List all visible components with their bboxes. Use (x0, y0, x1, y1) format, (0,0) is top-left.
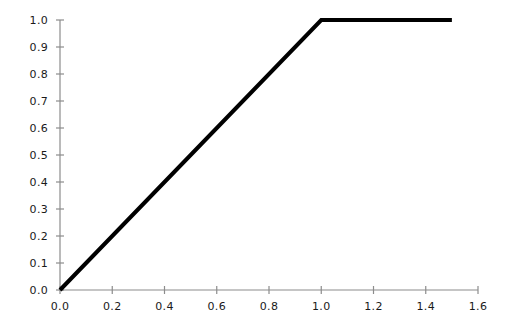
y-tick-label: 0.7 (6, 95, 48, 108)
plot-canvas (0, 0, 510, 329)
axes-group (56, 20, 478, 294)
x-tick-label: 1.6 (469, 300, 487, 313)
y-tick-label: 0.1 (6, 257, 48, 270)
y-tick-label: 1.0 (6, 14, 48, 27)
x-tick-label: 0.6 (208, 300, 226, 313)
x-tick-label: 0.4 (155, 300, 173, 313)
y-tick-label: 0.8 (6, 68, 48, 81)
series-line-clipped-ramp (60, 20, 452, 290)
x-tick-label: 1.4 (417, 300, 435, 313)
y-tick-label: 0.9 (6, 41, 48, 54)
y-tick-label: 0.3 (6, 203, 48, 216)
y-tick-label: 0.5 (6, 149, 48, 162)
x-tick-label: 0.2 (103, 300, 121, 313)
x-tick-label: 1.2 (364, 300, 382, 313)
x-tick-label: 1.0 (312, 300, 330, 313)
data-series-group (60, 20, 452, 290)
x-tick-label: 0.8 (260, 300, 278, 313)
y-tick-label: 0.0 (6, 284, 48, 297)
chart-figure: 0.00.10.20.30.40.50.60.70.80.91.0 0.00.2… (0, 0, 510, 329)
y-tick-label: 0.6 (6, 122, 48, 135)
y-tick-label: 0.4 (6, 176, 48, 189)
y-tick-label: 0.2 (6, 230, 48, 243)
x-tick-label: 0.0 (51, 300, 69, 313)
